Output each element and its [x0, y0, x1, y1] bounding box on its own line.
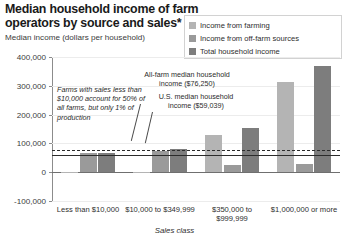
reference-line-all-farm-median — [52, 150, 340, 151]
y-tick-label: 200,000 — [0, 111, 46, 120]
annotation-us-median: U.S. median household income ($59,039) — [148, 92, 244, 110]
gridline — [52, 57, 340, 58]
legend-swatch-total-icon — [189, 48, 196, 55]
chart-container: Median household income of farm operator… — [0, 0, 349, 238]
chart-legend: Income from farming Income from off-farm… — [184, 15, 342, 59]
legend-swatch-offfarm-icon — [189, 35, 196, 42]
annotation-all-farm-median: All-farm median household income ($76,25… — [135, 70, 239, 88]
bar — [296, 164, 313, 172]
y-tick-label: 400,000 — [0, 53, 46, 62]
x-axis-title: Sales class — [0, 226, 349, 235]
legend-label-offfarm: Income from off-farm sources — [200, 34, 299, 43]
y-tick-label: 100,000 — [0, 139, 46, 148]
reference-line-us-median — [52, 155, 340, 156]
x-tick-label: $1,000,000 or more — [268, 205, 340, 214]
bar — [133, 172, 150, 173]
x-tick-label: Less than $10,000 — [52, 205, 124, 214]
y-tick-label: -100,000 — [0, 197, 46, 206]
bar — [277, 82, 294, 172]
y-tick-mark — [49, 86, 52, 87]
y-tick-mark — [49, 143, 52, 144]
legend-label-farming: Income from farming — [200, 21, 270, 30]
legend-label-total: Total household income — [200, 47, 280, 56]
y-tick-label: 0 — [0, 168, 46, 177]
y-tick-mark — [49, 201, 52, 202]
y-tick-label: 300,000 — [0, 82, 46, 91]
bar — [224, 165, 241, 172]
y-tick-mark — [49, 115, 52, 116]
x-tick-label: $350,000 to $999,999 — [196, 205, 268, 223]
x-tick-label: $10,000 to $349,999 — [124, 205, 196, 214]
bar — [170, 149, 187, 172]
gridline — [52, 201, 340, 202]
legend-item-offfarm: Income from off-farm sources — [189, 32, 337, 45]
bar — [61, 172, 78, 173]
bar — [205, 135, 222, 172]
y-tick-mark — [49, 57, 52, 58]
legend-swatch-farming-icon — [189, 22, 196, 29]
annotation-small-farms: Farms with sales less than $10,000 accou… — [57, 85, 149, 122]
y-axis — [52, 57, 53, 201]
gridline — [52, 143, 340, 144]
legend-item-farming: Income from farming — [189, 19, 337, 32]
